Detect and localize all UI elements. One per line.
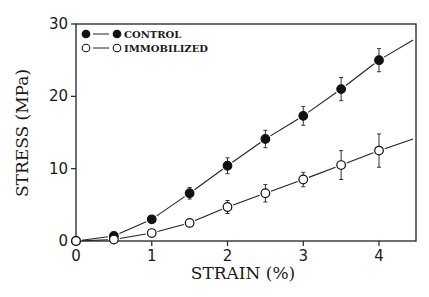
open-circle-marker xyxy=(261,189,270,198)
stress-strain-chart: 012340102030STRAIN (%)STRESS (MPa)CONTRO… xyxy=(0,0,429,297)
series-line-control xyxy=(194,169,222,189)
x-tick-label: 1 xyxy=(147,247,157,265)
series-line-immobilized xyxy=(120,234,146,238)
legend-label: CONTROL xyxy=(124,29,181,40)
open-circle-marker xyxy=(223,203,232,212)
series-line-control xyxy=(119,222,146,234)
legend-marker xyxy=(82,30,90,38)
y-tick-label: 10 xyxy=(49,160,68,178)
x-tick-label: 3 xyxy=(298,247,308,265)
filled-circle-marker xyxy=(375,56,384,65)
series-line-immobilized xyxy=(233,195,260,205)
legend-marker xyxy=(113,44,121,52)
open-circle-marker xyxy=(299,175,308,184)
y-tick-label: 0 xyxy=(58,232,68,250)
x-axis-title: STRAIN (%) xyxy=(191,263,295,283)
series-line-immobilized xyxy=(195,209,222,220)
x-tick-label: 4 xyxy=(374,247,384,265)
filled-circle-marker xyxy=(299,112,308,121)
series-line-control xyxy=(384,40,413,57)
open-circle-marker xyxy=(375,146,384,155)
legend-marker xyxy=(113,30,121,38)
series-line-immobilized xyxy=(385,139,413,149)
legend-marker xyxy=(82,44,90,52)
series-line-immobilized xyxy=(271,182,298,192)
filled-circle-marker xyxy=(337,85,346,94)
y-tick-label: 20 xyxy=(49,87,68,105)
filled-circle-marker xyxy=(147,215,156,224)
open-circle-marker xyxy=(72,237,81,246)
filled-circle-marker xyxy=(223,161,232,170)
y-axis-title: STRESS (MPa) xyxy=(12,69,32,197)
legend-label: IMMOBILIZED xyxy=(124,43,208,54)
filled-circle-marker xyxy=(185,189,194,198)
series-line-control xyxy=(157,197,185,216)
series-line-control xyxy=(346,64,374,86)
series-line-control xyxy=(308,93,336,113)
open-circle-marker xyxy=(147,229,156,238)
filled-circle-marker xyxy=(261,135,270,144)
y-tick-label: 30 xyxy=(49,15,68,33)
series-line-immobilized xyxy=(347,153,374,163)
x-tick-label: 0 xyxy=(71,247,81,265)
series-line-immobilized xyxy=(158,224,184,231)
open-circle-marker xyxy=(337,161,346,170)
series-line-control xyxy=(232,142,260,162)
series-line-immobilized xyxy=(309,167,336,177)
plot-frame xyxy=(76,24,416,241)
open-circle-marker xyxy=(185,219,194,228)
series-line-control xyxy=(270,119,298,136)
open-circle-marker xyxy=(110,235,119,244)
